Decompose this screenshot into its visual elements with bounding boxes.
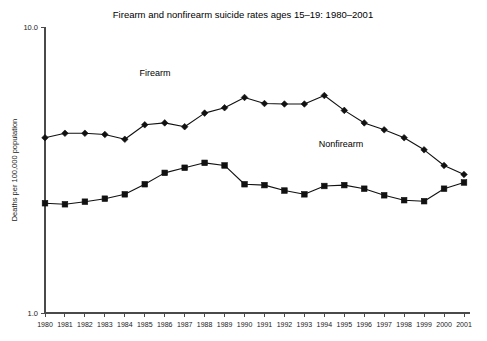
series-layer — [42, 92, 468, 207]
data-point-marker — [142, 181, 148, 187]
data-point-marker — [282, 188, 288, 194]
data-point-marker — [221, 104, 228, 111]
series-label-firearm: Firearm — [140, 68, 171, 78]
x-tick-label: 2001 — [456, 321, 472, 328]
data-point-marker — [381, 127, 388, 134]
data-point-marker — [182, 165, 188, 171]
data-point-marker — [162, 170, 168, 176]
y-tick-label: 10.0 — [23, 23, 38, 32]
x-tick-label: 1980 — [37, 321, 53, 328]
data-point-marker — [401, 134, 408, 141]
x-tick-label: 1986 — [157, 321, 173, 328]
x-tick-label: 1996 — [356, 321, 372, 328]
data-point-marker — [222, 163, 228, 169]
data-point-marker — [201, 110, 208, 117]
data-point-marker — [421, 198, 427, 204]
x-tick-label: 1988 — [197, 321, 213, 328]
data-point-marker — [381, 192, 387, 198]
x-tick-label: 1993 — [297, 321, 313, 328]
data-point-marker — [262, 182, 268, 188]
data-point-marker — [161, 120, 168, 127]
x-tick-label: 1995 — [336, 321, 352, 328]
x-tick-label: 1990 — [237, 321, 253, 328]
data-point-marker — [401, 197, 407, 203]
data-point-marker — [102, 196, 108, 202]
y-axis-title: Deaths per 100,000 population — [10, 119, 19, 222]
data-point-marker — [281, 101, 288, 108]
series-firearm — [42, 92, 468, 178]
x-tick-label: 1992 — [277, 321, 293, 328]
x-tick-label: 1989 — [217, 321, 233, 328]
data-point-marker — [241, 94, 248, 101]
series-label-nonfirearm: Nonfirearm — [319, 139, 364, 149]
data-point-marker — [62, 130, 69, 137]
x-tick-label: 1984 — [117, 321, 133, 328]
data-point-marker — [301, 101, 308, 108]
data-point-marker — [202, 160, 208, 166]
series-annotations: FirearmNonfirearm — [140, 68, 364, 149]
x-tick-label: 1997 — [376, 321, 392, 328]
data-point-marker — [42, 200, 48, 206]
data-point-marker — [62, 201, 68, 207]
series-nonfirearm — [42, 160, 467, 207]
data-point-marker — [261, 100, 268, 107]
x-tick-label: 1982 — [77, 321, 93, 328]
x-tick-label: 1981 — [57, 321, 73, 328]
data-point-marker — [42, 134, 49, 141]
data-point-marker — [361, 120, 368, 127]
data-point-marker — [302, 192, 308, 198]
data-point-marker — [461, 180, 467, 186]
x-tick-label: 1987 — [177, 321, 193, 328]
x-tick-label: 1983 — [97, 321, 113, 328]
data-point-marker — [322, 183, 328, 189]
x-tick-label: 1998 — [396, 321, 412, 328]
chart-title: Firearm and nonfirearm suicide rates age… — [113, 9, 373, 20]
data-point-marker — [441, 186, 447, 192]
data-point-marker — [82, 199, 88, 205]
data-point-marker — [82, 130, 89, 137]
x-axis-ticks: 1980198119821983198419851986198719881989… — [37, 313, 472, 328]
y-axis-ticks: 10.01.0 — [23, 23, 45, 318]
x-tick-label: 1994 — [317, 321, 333, 328]
data-point-marker — [122, 192, 128, 198]
chart-container: Firearm and nonfirearm suicide rates age… — [0, 0, 487, 341]
data-point-marker — [361, 186, 367, 192]
x-tick-label: 1999 — [416, 321, 432, 328]
x-tick-label: 1985 — [137, 321, 153, 328]
data-point-marker — [181, 123, 188, 130]
data-point-marker — [461, 171, 468, 178]
x-tick-label: 2000 — [436, 321, 452, 328]
data-point-marker — [242, 181, 248, 187]
data-point-marker — [341, 182, 347, 188]
data-point-marker — [102, 131, 109, 138]
y-tick-label: 1.0 — [28, 309, 38, 318]
suicide-rates-line-chart: Firearm and nonfirearm suicide rates age… — [0, 0, 487, 341]
x-tick-label: 1991 — [257, 321, 273, 328]
